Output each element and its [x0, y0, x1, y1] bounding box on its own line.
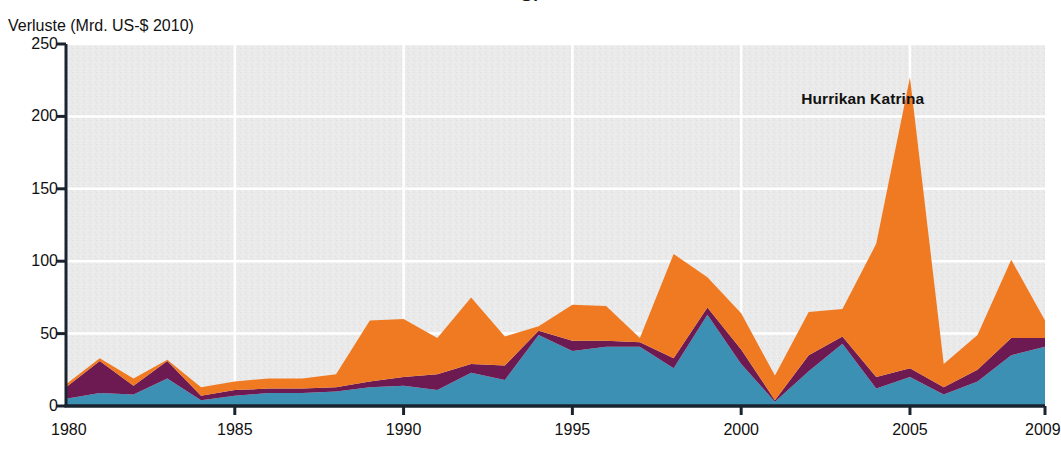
y-tick-label: 50	[6, 326, 58, 342]
y-tick-label: 0	[6, 398, 58, 414]
y-axis-ticks: 050100150200250	[0, 0, 58, 455]
cut-off-caption: G.	[0, 0, 1058, 4]
x-tick-label: 1985	[217, 422, 253, 438]
y-tick-label: 150	[6, 181, 58, 197]
x-tick-label: 2000	[723, 422, 759, 438]
annotation-hurrikan-katrina: Hurrikan Katrina	[801, 90, 924, 108]
x-tick-label: 1990	[386, 422, 422, 438]
y-tick-label: 200	[6, 108, 58, 124]
y-tick-label: 100	[6, 253, 58, 269]
x-tick-label: 1995	[555, 422, 591, 438]
x-tick-label: 2005	[892, 422, 928, 438]
x-tick-label: 2009	[1025, 422, 1061, 438]
y-tick-label: 250	[6, 36, 58, 52]
x-tick-label: 1980	[51, 422, 87, 438]
